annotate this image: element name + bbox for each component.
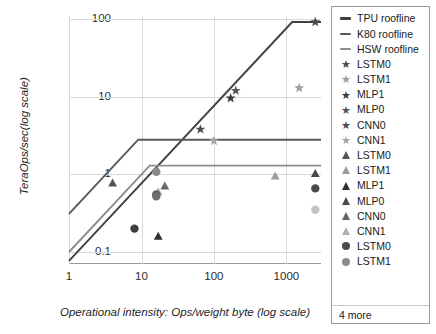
star-marker-icon: ★ [339, 59, 352, 69]
data-point-tpu-mlp1 [226, 93, 236, 102]
star-marker-icon: ★ [339, 135, 352, 145]
x-tick-label: 100 [184, 270, 244, 282]
legend-item-label: MLP1 [357, 180, 384, 191]
data-point-hsw-lstm1 [271, 171, 280, 179]
roofline-tpu [69, 22, 321, 261]
legend-item[interactable]: LSTM0 [332, 148, 429, 163]
x-axis-title: Operational intensity: Ops/weight byte (… [40, 306, 330, 318]
legend-item-label: LSTM1 [357, 256, 391, 267]
data-point-tpu-lstm1 [294, 83, 304, 92]
line-marker-icon [339, 33, 352, 36]
triangle-marker-icon [339, 197, 352, 205]
legend-divider [332, 305, 429, 306]
data-point-k80-cnn1 [311, 206, 319, 214]
legend-item[interactable]: ★LSTM0 [332, 57, 429, 72]
circle-marker-icon [339, 242, 352, 250]
data-point-tpu-cnn1 [209, 136, 219, 145]
star-marker-icon: ★ [339, 120, 352, 130]
legend-item[interactable]: HSW roofline [332, 41, 429, 56]
legend-item-label: LSTM0 [357, 59, 391, 70]
star-marker-icon: ★ [339, 74, 352, 84]
data-point-tpu-cnn0 [195, 124, 205, 133]
legend-item[interactable]: ★CNN1 [332, 133, 429, 148]
legend-item-label: TPU roofline [357, 13, 415, 24]
triangle-marker-icon [339, 212, 352, 220]
legend-item-label: HSW roofline [357, 44, 419, 55]
x-tick-label: 10 [112, 270, 172, 282]
legend-item[interactable]: TPU roofline [332, 11, 429, 26]
data-point-k80-mlp1 [130, 224, 138, 232]
legend-item-label: CNN1 [357, 226, 386, 237]
line-marker-icon [339, 48, 352, 51]
legend-item[interactable]: ★MLP1 [332, 87, 429, 102]
legend-item[interactable]: ★CNN0 [332, 117, 429, 132]
x-tick-label: 1 [39, 270, 99, 282]
legend-item-label: K80 roofline [357, 29, 413, 40]
star-marker-icon: ★ [339, 90, 352, 100]
line-marker-icon [339, 17, 352, 20]
data-point-k80-lstm0 [311, 184, 319, 192]
legend-item[interactable]: LSTM1 [332, 254, 429, 269]
legend-item-label: LSTM0 [357, 150, 391, 161]
data-point-tpu-lstm0 [310, 17, 320, 26]
data-point-k80-cnn0 [152, 192, 160, 200]
plot-area [69, 16, 321, 264]
data-point-k80-lstm1 [152, 168, 160, 176]
legend-item[interactable]: MLP1 [332, 178, 429, 193]
triangle-marker-icon [339, 151, 352, 159]
legend-item[interactable]: CNN0 [332, 208, 429, 223]
legend-more-label[interactable]: 4 more [332, 309, 429, 321]
legend-item[interactable]: LSTM1 [332, 163, 429, 178]
data-point-hsw-mlp1 [154, 232, 163, 240]
triangle-marker-icon [339, 227, 352, 235]
x-tick-label: 1000 [256, 270, 316, 282]
legend-item[interactable]: ★MLP0 [332, 102, 429, 117]
star-marker-icon: ★ [339, 105, 352, 115]
legend-item[interactable]: CNN1 [332, 224, 429, 239]
legend-item[interactable]: K80 roofline [332, 26, 429, 41]
legend-item-label: MLP1 [357, 89, 384, 100]
triangle-marker-icon [339, 166, 352, 174]
legend-items: TPU rooflineK80 rooflineHSW roofline★LST… [332, 11, 429, 269]
series-layer [69, 16, 321, 264]
legend-item-label: LSTM0 [357, 241, 391, 252]
data-point-hsw-mlp0 [311, 169, 320, 177]
data-point-hsw-cnn0 [160, 182, 169, 190]
legend[interactable]: TPU rooflineK80 rooflineHSW roofline★LST… [331, 6, 430, 324]
roofline-k80 [69, 140, 321, 214]
legend-item[interactable]: ★LSTM1 [332, 72, 429, 87]
legend-item-label: CNN0 [357, 211, 386, 222]
legend-item-label: LSTM1 [357, 74, 391, 85]
circle-marker-icon [339, 258, 352, 266]
chart-root: 0.1110100 TeraOps/sec(log scale) 1101001… [0, 0, 436, 334]
legend-item-label: CNN1 [357, 135, 386, 146]
legend-item-label: LSTM1 [357, 165, 391, 176]
legend-item-label: CNN0 [357, 120, 386, 131]
legend-item-label: MLP0 [357, 196, 384, 207]
legend-item[interactable]: LSTM0 [332, 239, 429, 254]
roofline-hsw [69, 166, 321, 252]
legend-item-label: MLP0 [357, 104, 384, 115]
triangle-marker-icon [339, 182, 352, 190]
y-axis-title: TeraOps/sec(log scale) [18, 51, 30, 221]
data-point-hsw-lstm0 [108, 178, 117, 186]
legend-item[interactable]: MLP0 [332, 193, 429, 208]
